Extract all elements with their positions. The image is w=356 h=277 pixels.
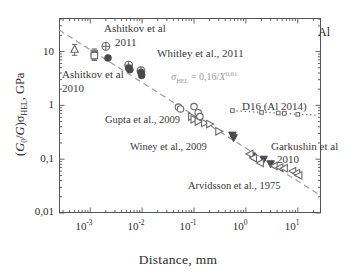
annotation-ashitkov-2010: Ashitkov et al <box>62 68 124 80</box>
annotation-garkushin: Garkushin et al <box>271 140 338 152</box>
xtick-exp-1e-2: -2 <box>138 218 144 227</box>
xtick-exp-1e0: 0 <box>244 218 248 227</box>
annotation-ashitkov-2011: Ashitkov et al <box>104 22 166 34</box>
xtick-exp-1e-1: -1 <box>190 218 196 227</box>
annotation-d16: D16 (Al 2014) <box>242 100 307 112</box>
annotation-whitley: Whitley et al., 2011 <box>157 47 244 59</box>
xtick-exp-1e-3: -3 <box>86 218 92 227</box>
xtick-label-1e1: 101 <box>270 218 314 232</box>
annotation-ashitkov-2011-year: 2011 <box>115 36 137 48</box>
figure-container: 10 1 0,1 0,01 10-3 10-2 10-1 100 101 Dis… <box>0 0 356 277</box>
annotation-arvidsson: Arvidsson et al., 1975 <box>188 180 280 192</box>
material-label: Al <box>318 25 330 40</box>
xtick-label-1e-3: 10-3 <box>62 218 106 232</box>
equation-subscript: HEL <box>176 77 188 84</box>
xtick-label-1e-1: 10-1 <box>166 218 210 232</box>
xtick-label-1e-2: 10-2 <box>114 218 158 232</box>
equation-exponent: 0,61 <box>225 70 237 77</box>
xtick-exp-1e1: 1 <box>296 218 300 227</box>
annotation-garkushin-year: 2010 <box>277 153 299 165</box>
xtick-label-1e0: 100 <box>218 218 262 232</box>
annotation-winey: Winey et al., 2009 <box>130 141 207 153</box>
x-axis-title: Distance, mm <box>0 252 356 268</box>
annotation-gupta: Gupta et al., 2009 <box>105 114 180 126</box>
y-axis-title: (G0/G)σHEL, GPa <box>13 14 30 214</box>
annotation-power-law-equation: σHEL = 0,16/X0,61 <box>171 70 237 84</box>
annotation-ashitkov-2010-year: 2010 <box>62 82 84 94</box>
equation-middle: = 0,16/ <box>188 71 219 82</box>
